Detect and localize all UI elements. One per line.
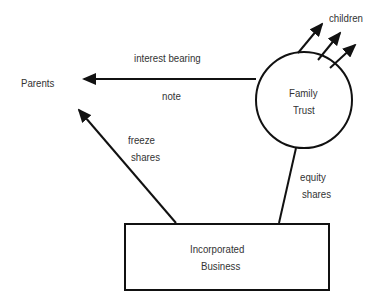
diagram-canvas (0, 0, 383, 305)
child-arrow-2 (318, 33, 340, 60)
business-label-line1: Incorporated (190, 242, 244, 256)
note-label-line2: note (162, 89, 181, 103)
children-label: children (329, 11, 363, 25)
business-label-line2: Business (201, 259, 240, 273)
equity-label-line2: shares (302, 187, 331, 201)
child-arrow-1 (298, 24, 322, 53)
equity-label-line1: equity (300, 170, 326, 184)
freeze-shares-arrow (79, 110, 176, 223)
child-arrow-3 (330, 45, 355, 68)
family-trust-node (256, 52, 352, 148)
parents-label: Parents (21, 76, 54, 90)
equity-shares-line (279, 148, 296, 223)
trust-label-line2: Trust (293, 103, 315, 117)
freeze-label-line1: freeze (128, 133, 155, 147)
note-label-line1: interest bearing (134, 51, 201, 65)
freeze-label-line2: shares (131, 150, 160, 164)
business-node (125, 224, 329, 290)
trust-label-line1: Family (289, 86, 318, 100)
